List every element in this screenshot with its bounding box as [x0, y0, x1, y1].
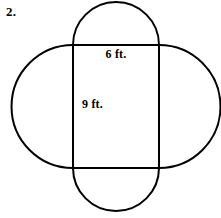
- geometry-figure-page: 2. 6 ft. 9 ft.: [0, 0, 221, 218]
- right-semicircle-arc: [159, 45, 220, 168]
- composite-shape-drawing: [0, 0, 221, 218]
- height-dimension-label: 9 ft.: [82, 98, 103, 111]
- top-semicircle-arc: [73, 2, 159, 45]
- problem-number-label: 2.: [6, 5, 16, 19]
- bottom-semicircle-arc: [73, 168, 159, 211]
- width-dimension-label: 6 ft.: [73, 48, 159, 61]
- left-semicircle-arc: [12, 45, 73, 168]
